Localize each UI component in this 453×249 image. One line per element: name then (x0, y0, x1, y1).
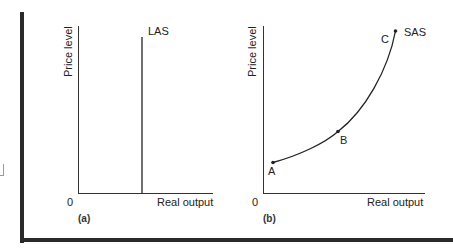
panel-b-label: (b) (263, 213, 276, 224)
point-a-label: A (268, 165, 275, 177)
las-label: LAS (148, 25, 169, 37)
panel-b-x-axis-label: Real output (367, 196, 423, 208)
point-b-marker (336, 130, 340, 134)
panel-a-origin-label: 0 (67, 196, 73, 208)
panel-b-axes (263, 26, 425, 194)
panel-a-label: (a) (78, 213, 90, 224)
sas-curve (271, 29, 397, 164)
point-a-marker (271, 161, 275, 165)
panel-b-y-axis-label: Price level (246, 26, 258, 77)
point-b-label: B (340, 134, 347, 146)
panel-a-axes (78, 26, 213, 194)
panel-a-x-axis-label: Real output (157, 196, 213, 208)
panel-a-y-axis-label: Price level (62, 26, 74, 77)
panel-b-origin-label: 0 (252, 196, 258, 208)
sas-label: SAS (404, 26, 426, 38)
point-c-marker (394, 29, 398, 33)
point-c-label: C (381, 33, 389, 45)
